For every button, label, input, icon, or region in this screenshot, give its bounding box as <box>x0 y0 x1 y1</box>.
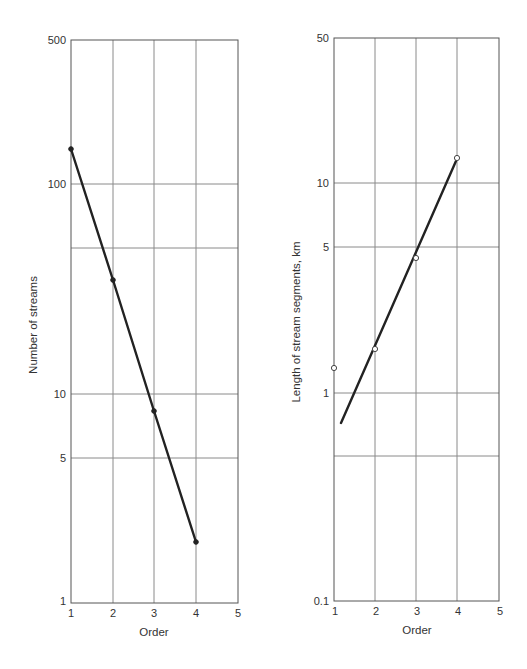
chart-number-of-streams: 500 100 10 5 1 1 2 3 4 5 Order Number of… <box>27 34 241 638</box>
data-point-order-1 <box>331 365 336 370</box>
figure: 500 100 10 5 1 1 2 3 4 5 Order Number of… <box>0 0 527 669</box>
y-axis-label: Length of stream segments, km <box>290 241 302 402</box>
ytick-100: 100 <box>48 178 66 190</box>
xtick-2: 2 <box>373 605 379 617</box>
xtick-2: 2 <box>110 607 116 619</box>
xtick-3: 3 <box>151 607 157 619</box>
ytick-5: 5 <box>60 452 66 464</box>
xtick-5: 5 <box>235 607 241 619</box>
x-axis-label: Order <box>139 626 169 638</box>
ytick-0.1: 0.1 <box>314 595 329 607</box>
x-axis-label: Order <box>402 624 432 636</box>
data-point-order-2 <box>111 278 116 283</box>
ytick-50: 50 <box>317 32 329 44</box>
ytick-5: 5 <box>323 241 329 253</box>
ytick-1: 1 <box>60 595 66 607</box>
y-axis-label: Number of streams <box>27 276 39 374</box>
data-point-order-2 <box>372 346 377 351</box>
xtick-5: 5 <box>497 605 503 617</box>
xtick-4: 4 <box>193 607 199 619</box>
xtick-4: 4 <box>455 605 461 617</box>
ytick-1: 1 <box>323 387 329 399</box>
ytick-500: 500 <box>48 34 66 46</box>
data-point-order-4 <box>454 155 459 160</box>
chart-stream-segment-length: 50 10 5 1 0.1 1 2 3 4 5 Order Length of … <box>290 32 503 636</box>
xtick-1: 1 <box>68 607 74 619</box>
data-point-order-3 <box>152 409 157 414</box>
data-point-order-3 <box>413 255 418 260</box>
series-line <box>71 149 196 542</box>
data-point-order-4 <box>194 540 199 545</box>
ytick-10: 10 <box>54 388 66 400</box>
trend-line <box>341 161 456 423</box>
xtick-3: 3 <box>414 605 420 617</box>
ytick-10: 10 <box>317 177 329 189</box>
xtick-1: 1 <box>332 605 338 617</box>
data-point-order-1 <box>69 147 74 152</box>
